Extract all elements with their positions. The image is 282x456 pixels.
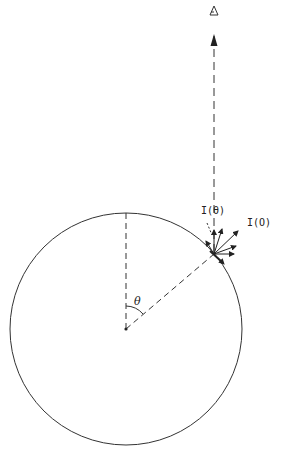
- label-i-theta: I(θ): [201, 205, 225, 216]
- slanted-radius: [126, 254, 214, 329]
- emission-rays: [206, 229, 238, 264]
- center-point: [124, 327, 127, 330]
- i-theta-leader: [207, 223, 212, 235]
- label-angle-theta: θ: [134, 295, 141, 308]
- diagram-canvas: [0, 0, 282, 456]
- observer-eye-icon: [210, 6, 218, 15]
- observer-arrowhead: [211, 34, 218, 46]
- label-i-zero: I(O): [247, 217, 271, 228]
